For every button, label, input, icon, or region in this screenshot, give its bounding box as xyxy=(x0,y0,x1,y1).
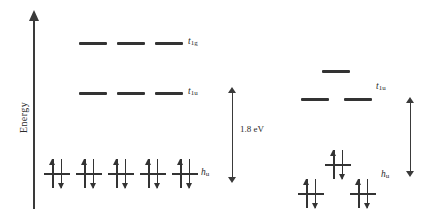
level-hu-right-a xyxy=(298,193,324,196)
level-t1u-right-a xyxy=(301,98,329,101)
level-hu-right-upper xyxy=(325,164,351,167)
level-hu-left-2 xyxy=(76,173,102,176)
level-t1u-right-upper xyxy=(322,70,350,73)
spin-up-arrow-icon xyxy=(145,159,151,165)
spin-down-arrow-icon xyxy=(122,183,128,189)
energy-axis-label: Energy xyxy=(18,92,29,144)
term-label-hu-left: hu xyxy=(201,167,209,178)
level-t1u-right-b xyxy=(344,98,372,101)
term-subscript: 1u xyxy=(379,84,386,92)
electron-pair-hu-left-5 xyxy=(172,159,198,189)
spin-up-arrow-icon xyxy=(177,159,183,165)
spin-down-arrow-icon xyxy=(312,203,318,209)
gap-value-label: 1.8 eV xyxy=(240,124,264,134)
term-label-t1u-right: t1u xyxy=(376,81,386,92)
level-hu-left-1 xyxy=(44,173,70,176)
energy-axis-line xyxy=(33,20,35,209)
gap-arrow-shaft xyxy=(232,92,234,178)
electron-pair-hu-left-4 xyxy=(140,159,166,189)
spin-up-arrow-icon xyxy=(81,159,87,165)
spin-up-arrow-icon xyxy=(49,159,55,165)
level-t1g-c xyxy=(155,42,183,45)
term-subscript: 1u xyxy=(191,89,198,97)
gap-arrow-left xyxy=(227,87,238,183)
spin-up-arrow-icon xyxy=(113,159,119,165)
electron-pair-hu-right-upper xyxy=(325,150,351,180)
spin-down-arrow-icon xyxy=(90,183,96,189)
gap-arrow-bottom-head-icon xyxy=(228,177,236,183)
spin-down-arrow-icon xyxy=(186,183,192,189)
level-t1u-b xyxy=(117,92,145,95)
electron-pair-hu-left-3 xyxy=(108,159,134,189)
spin-down-arrow-icon xyxy=(154,183,160,189)
level-hu-left-5 xyxy=(172,173,198,176)
gap-arrow-bottom-head-icon xyxy=(406,171,414,177)
level-t1u-a xyxy=(79,92,107,95)
spin-up-arrow-icon xyxy=(355,179,361,185)
electron-pair-hu-right-a xyxy=(298,179,324,209)
term-label-hu-right: hu xyxy=(381,169,389,180)
spin-down-arrow-icon xyxy=(58,183,64,189)
term-label-t1u-left: t1u xyxy=(188,86,198,97)
level-t1g-b xyxy=(117,42,145,45)
spin-down-arrow-icon xyxy=(339,174,345,180)
level-hu-left-4 xyxy=(140,173,166,176)
level-t1g-a xyxy=(79,42,107,45)
spin-up-arrow-icon xyxy=(303,179,309,185)
electron-pair-hu-right-b xyxy=(350,179,376,209)
energy-level-diagram-figure: Energy t1g t1u xyxy=(0,0,425,223)
gap-arrow-right xyxy=(405,97,416,177)
level-hu-left-3 xyxy=(108,173,134,176)
spin-down-arrow-icon xyxy=(364,203,370,209)
level-hu-right-b xyxy=(350,193,376,196)
term-label-t1g-left: t1g xyxy=(188,36,198,47)
level-t1u-c xyxy=(155,92,183,95)
gap-arrow-shaft xyxy=(410,102,412,172)
term-subscript: u xyxy=(386,172,390,180)
spin-up-arrow-icon xyxy=(330,150,336,156)
electron-pair-hu-left-1 xyxy=(44,159,70,189)
term-subscript: 1g xyxy=(191,39,198,47)
term-subscript: u xyxy=(206,170,210,178)
electron-pair-hu-left-2 xyxy=(76,159,102,189)
